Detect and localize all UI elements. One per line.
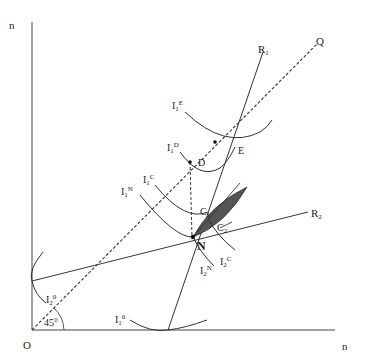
- point-d: [188, 160, 192, 164]
- i1c-label: I1C: [143, 174, 155, 187]
- i1d-label: I1D: [167, 142, 179, 155]
- x-axis-label: n: [342, 341, 348, 352]
- c2-label: C2: [217, 223, 227, 235]
- n-label: N: [197, 240, 206, 252]
- i1n-label: I1N: [121, 186, 133, 199]
- r2-label: R2: [311, 208, 322, 221]
- e-label: E: [238, 146, 244, 156]
- point-e-marker: [213, 140, 217, 144]
- y-axis-label: n: [9, 20, 15, 31]
- dashed-d-to-n: [190, 162, 192, 237]
- isocurve-i20: [31, 252, 46, 303]
- q-label: Q: [316, 36, 324, 47]
- isocurve-i1n: [140, 195, 193, 237]
- r1-label: R1: [258, 44, 269, 57]
- i10-label: I10: [115, 314, 125, 327]
- d-label: D: [198, 158, 205, 168]
- reaction-line-r2: [32, 212, 308, 281]
- point-n: [191, 235, 195, 239]
- i1e-label: I1E: [172, 100, 183, 113]
- angle-label: 45°: [44, 318, 58, 328]
- origin-label: O: [23, 340, 31, 351]
- i20-label: I20: [46, 294, 56, 307]
- c1-label: C1: [200, 207, 210, 219]
- diagonal-line-oq: [32, 43, 318, 330]
- isocurve-i1e: [185, 112, 272, 138]
- i2c-label: I2C: [220, 256, 232, 269]
- reaction-line-r1: [168, 52, 263, 330]
- i2n-label: I2N: [200, 265, 212, 278]
